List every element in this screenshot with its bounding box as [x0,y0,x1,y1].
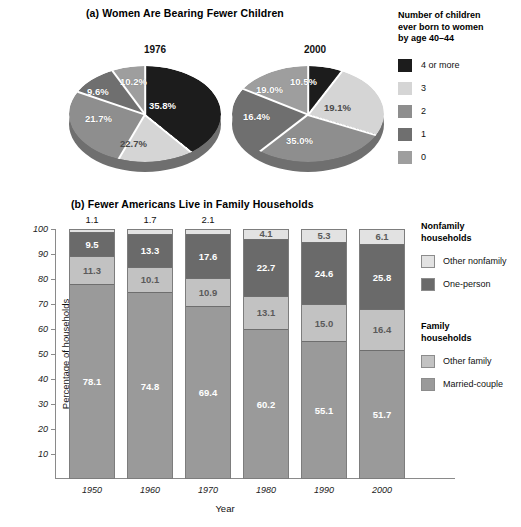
bar-top-value-label: 1.1 [69,214,115,225]
bar-legend-family-swatch [421,378,435,391]
bar-stack: 13.310.174.8 [127,229,173,479]
bar-legend-nonfamily-label: Other nonfamily [443,256,507,266]
bar-segment[interactable]: 16.4 [359,309,405,350]
y-axis-tick-label: 70 [38,299,48,309]
bar-legend-group-nonfamily: Nonfamily households Other nonfamilyOne-… [421,221,521,293]
bar-legend-nonfamily-title: Nonfamily households [421,221,521,244]
bar-segment-value: 78.1 [83,376,102,387]
bar-segment-value: 24.6 [315,268,334,279]
x-axis-tick-label: 1970 [185,485,231,495]
pie-legend-swatch [398,128,412,141]
bar-segment[interactable]: 22.7 [243,239,289,296]
y-axis-tick [51,279,56,280]
bar-segment[interactable]: 15.0 [301,304,347,342]
y-axis-tick-label: 90 [38,249,48,259]
pie-legend-label: 2 [421,106,426,116]
bar-segment-value: 51.7 [373,409,392,420]
bar-segment-value: 4.1 [259,228,272,239]
bar-segment-value: 9.5 [85,239,98,250]
pie-2000-label-4ormore: 10.5% [290,76,317,87]
pie-legend-item[interactable]: 4 or more [398,56,521,75]
pie-chart-2000: 10.5% 19.1% 35.0% 16.4% 19.0% [228,58,388,178]
pie-legend-item[interactable]: 2 [398,102,521,121]
bar-legend-family-line1: Family [421,321,521,333]
y-axis-tick-label: 40 [38,374,48,384]
bar-stack: 5.324.615.055.1 [301,229,347,479]
pie-legend: Number of children ever born to women by… [398,10,521,171]
pie-legend-title-line1: Number of children [398,10,521,22]
bar-segment-value: 15.0 [315,318,334,329]
y-axis-tick-label: 60 [38,324,48,334]
bar-segment[interactable]: 11.3 [69,256,115,284]
y-axis-tick [51,254,56,255]
bar-segment[interactable]: 4.1 [243,229,289,239]
bar-segment[interactable]: 74.8 [127,292,173,479]
bar-legend-nonfamily-item[interactable]: Other nonfamily [421,252,521,270]
bar-top-value-label: 2.1 [185,214,231,225]
bar-segment[interactable]: 5.3 [301,229,347,242]
bar-segment-value: 17.6 [199,251,218,262]
bar-segment-value: 16.4 [373,324,392,335]
bar-stack: 17.610.969.4 [185,229,231,479]
pie-legend-item[interactable]: 1 [398,125,521,144]
pie-legend-item[interactable]: 0 [398,148,521,167]
pie-1976-year-label: 1976 [115,44,195,55]
pie-2000-label-3: 19.1% [324,102,351,113]
bar-legend-family-label: Married-couple [443,379,503,389]
bar-segment[interactable]: 60.2 [243,329,289,480]
bar-segment[interactable]: 10.1 [127,267,173,292]
pie-legend-swatch [398,82,412,95]
bar-segment-value: 74.8 [141,381,160,392]
pie-legend-label: 4 or more [421,60,460,70]
y-axis-tick [51,329,56,330]
pie-legend-title-line2: ever born to women [398,22,521,34]
bar-legend-family-item[interactable]: Other family [421,352,521,370]
pie-legend-title: Number of children ever born to women by… [398,10,521,45]
x-axis-tick-label: 1990 [301,485,347,495]
bar-segment[interactable]: 13.3 [127,234,173,267]
pie-2000-label-2: 35.0% [286,135,313,146]
bar-stack: 6.125.816.451.7 [359,229,405,479]
bar-segment[interactable]: 13.1 [243,296,289,329]
bar-segment-value: 13.1 [257,307,276,318]
bar-legend-family-label: Other family [443,356,492,366]
bar-legend-nonfamily-items: Other nonfamilyOne-person [421,252,521,293]
bar-segment-value: 25.8 [373,272,392,283]
bar-legend-family-item[interactable]: Married-couple [421,375,521,393]
x-axis-tick-label: 1960 [127,485,173,495]
pie-legend-swatch [398,105,412,118]
panel-a-title: (a) Women Are Bearing Fewer Children [86,7,284,19]
bar-segment[interactable]: 78.1 [69,284,115,479]
pie-2000-label-0: 19.0% [256,84,283,95]
bar-segment-value: 10.1 [141,274,160,285]
pie-legend-swatch [398,59,412,72]
y-axis-tick-label: 50 [38,349,48,359]
pie-legend-label: 3 [421,83,426,93]
bar-segment[interactable]: 10.9 [185,278,231,305]
pie-1976-label-1: 9.6% [87,86,109,97]
bar-segment-value: 11.3 [83,265,101,276]
pie-legend-title-line3: by age 40–44 [398,33,521,45]
pie-2000-year-label: 2000 [275,44,355,55]
bar-legend-nonfamily-label: One-person [443,279,491,289]
pie-1976-label-3: 22.7% [120,138,147,149]
bar-segment[interactable]: 51.7 [359,350,405,479]
bar-legend-family-swatch [421,355,435,368]
bar-segment[interactable]: 69.4 [185,306,231,480]
x-axis-title: Year [55,503,395,514]
y-axis-tick-label: 20 [38,424,48,434]
bar-segment[interactable]: 24.6 [301,242,347,304]
pie-legend-item[interactable]: 3 [398,79,521,98]
y-axis-tick [51,229,56,230]
bar-segment[interactable]: 25.8 [359,244,405,309]
y-axis-tick-label: 80 [38,274,48,284]
y-axis-tick-label: 30 [38,399,48,409]
pie-2000-label-1: 16.4% [243,111,270,122]
bar-segment[interactable]: 9.5 [69,232,115,256]
bar-segment[interactable]: 17.6 [185,234,231,278]
pie-1976-label-2: 21.7% [85,113,112,124]
bar-segment[interactable]: 6.1 [359,229,405,244]
pie-legend-label: 0 [421,152,426,162]
bar-legend-nonfamily-item[interactable]: One-person [421,275,521,293]
bar-segment[interactable]: 55.1 [301,341,347,479]
